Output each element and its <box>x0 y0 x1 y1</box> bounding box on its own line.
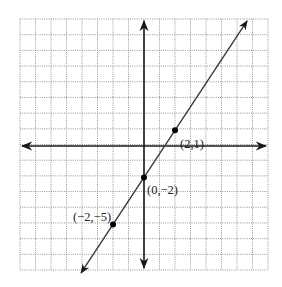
data-point <box>172 127 178 133</box>
point-label-0-neg2: (0,−2) <box>147 183 178 197</box>
data-point <box>141 174 147 180</box>
plotted-line <box>81 21 247 273</box>
coordinate-graph: (2,1) (0,−2) (−2,−5) <box>0 0 282 287</box>
point-label-neg2-neg5: (−2,−5) <box>73 210 111 224</box>
point-label-2-1: (2,1) <box>180 137 204 151</box>
